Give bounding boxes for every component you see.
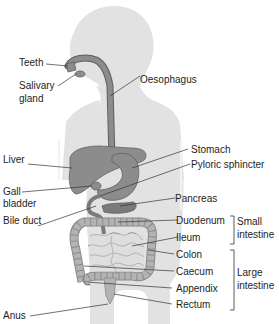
label-pancreas: Pancreas xyxy=(175,193,217,204)
label-small-intestine-2: intestine xyxy=(237,229,274,240)
label-pyloric-sphincter: Pyloric sphincter xyxy=(191,159,264,170)
label-stomach: Stomach xyxy=(191,144,230,155)
gall-bladder xyxy=(91,182,101,190)
teeth xyxy=(66,62,76,72)
label-teeth: Teeth xyxy=(19,57,43,68)
label-salivary-gland-1: Salivary xyxy=(19,80,55,91)
label-duodenum: Duodenum xyxy=(176,215,225,226)
label-ileum: Ileum xyxy=(176,232,200,243)
salivary-gland xyxy=(75,71,85,77)
label-large-intestine-1: Large xyxy=(237,267,263,278)
label-gall-bladder-1: Gall xyxy=(3,186,21,197)
label-bile-duct: Bile duct xyxy=(3,215,41,226)
label-rectum: Rectum xyxy=(176,299,210,310)
label-colon: Colon xyxy=(176,249,202,260)
label-large-intestine-2: intestine xyxy=(237,280,274,291)
label-anus: Anus xyxy=(3,310,26,321)
label-caecum: Caecum xyxy=(176,266,213,277)
label-small-intestine-1: Small xyxy=(237,216,262,227)
label-gall-bladder-2: bladder xyxy=(3,198,36,209)
label-oesophagus: Oesophagus xyxy=(140,74,197,85)
label-appendix: Appendix xyxy=(176,283,218,294)
label-liver: Liver xyxy=(3,154,25,165)
brackets xyxy=(230,216,234,310)
label-salivary-gland-2: gland xyxy=(19,93,43,104)
